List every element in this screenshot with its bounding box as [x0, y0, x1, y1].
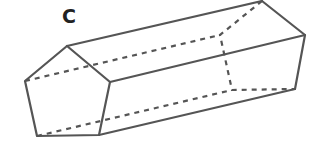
- pentagonal-prism-diagram: [0, 0, 320, 161]
- edge-top: [67, 1, 262, 46]
- hidden-edge-bottom-left: [37, 90, 232, 136]
- back-face-visible: [262, 1, 305, 89]
- edge-bottom-right: [99, 89, 295, 135]
- edge-right: [110, 35, 305, 82]
